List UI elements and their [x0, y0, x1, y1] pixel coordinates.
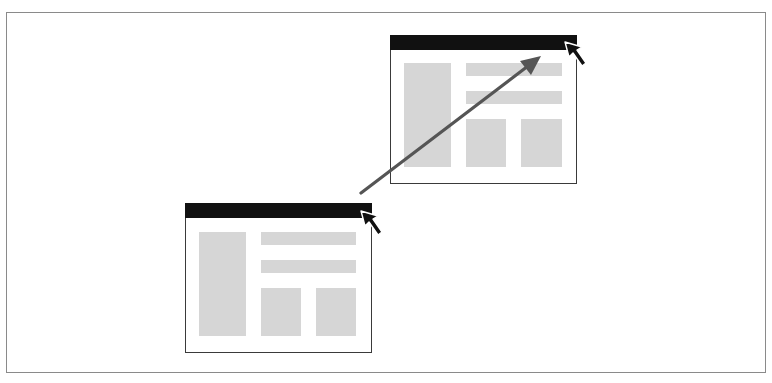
- diagram-frame: [6, 12, 766, 373]
- source-window-tile-block: [316, 288, 356, 336]
- destination-window-sidebar-block: [404, 63, 451, 167]
- source-window: [185, 203, 372, 353]
- destination-window-title-bar[interactable]: [390, 35, 577, 50]
- source-window-sidebar-block: [199, 232, 246, 336]
- destination-window-bar-block: [466, 91, 562, 104]
- source-window-bar-block: [261, 232, 356, 245]
- destination-window-tile-block: [521, 119, 562, 167]
- source-window-tile-block: [261, 288, 301, 336]
- destination-window-bar-block: [466, 63, 562, 76]
- source-window-title-bar[interactable]: [185, 203, 372, 218]
- destination-window-tile-block: [466, 119, 506, 167]
- diagram-canvas: [0, 0, 772, 383]
- destination-window: [390, 35, 577, 184]
- source-window-bar-block: [261, 260, 356, 273]
